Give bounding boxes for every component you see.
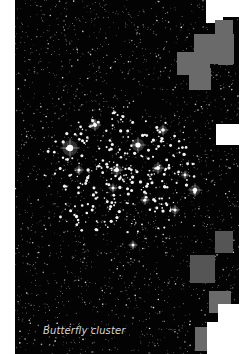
mask-block — [215, 231, 233, 253]
mask-block — [190, 255, 215, 283]
mask-block — [218, 52, 233, 65]
mask-block — [189, 68, 211, 90]
mask-block — [207, 322, 239, 354]
mask-block — [195, 327, 207, 351]
figure-caption: Butterfly cluster — [43, 325, 125, 336]
mask-block — [223, 0, 239, 17]
mask-block — [216, 124, 239, 145]
